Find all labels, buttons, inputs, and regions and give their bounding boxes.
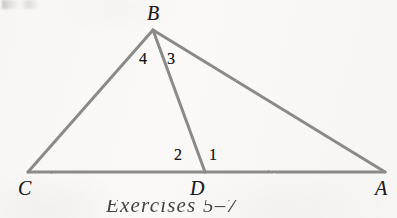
vertex-label-d: D <box>190 178 204 198</box>
angle-label-4: 4 <box>139 51 147 67</box>
vertex-label-b: B <box>147 3 159 23</box>
vertex-label-a: A <box>375 178 387 198</box>
segment-ba <box>153 30 385 172</box>
segment-cb <box>28 30 153 172</box>
angle-label-3: 3 <box>167 51 175 67</box>
triangle-strokes <box>28 30 385 172</box>
vertex-label-c: C <box>18 178 31 198</box>
geometry-figure: B C D A 4 3 2 1 Exercises 5–7 <box>0 0 397 218</box>
angle-label-2: 2 <box>174 147 182 163</box>
angle-label-1: 1 <box>209 147 217 163</box>
